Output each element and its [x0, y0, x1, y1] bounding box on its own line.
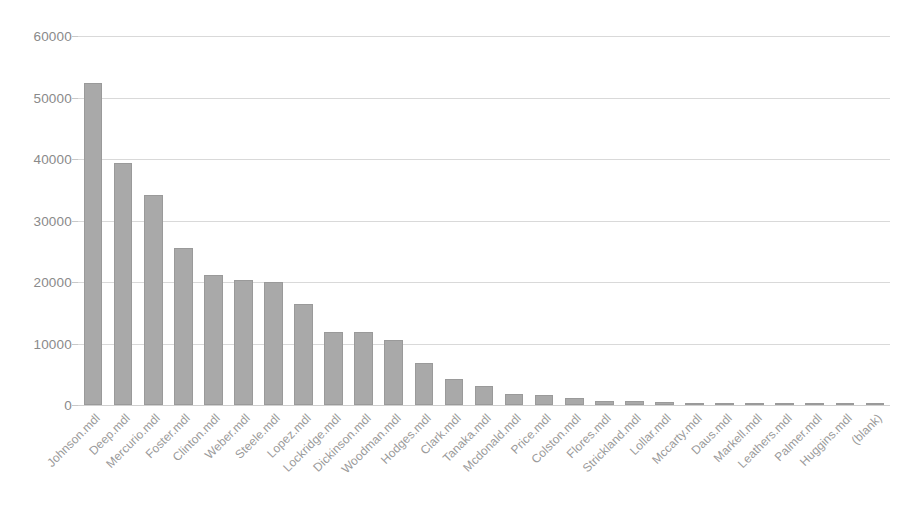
bar[interactable] [354, 332, 373, 405]
bar[interactable] [144, 195, 163, 405]
bar[interactable] [324, 332, 343, 405]
x-axis-category-label: (blank) [849, 411, 885, 447]
bars-layer [78, 36, 890, 405]
y-axis-tick-label: 50000 [6, 90, 72, 105]
y-axis-tick-label: 30000 [6, 213, 72, 228]
y-axis-tick-label: 10000 [6, 336, 72, 351]
y-axis: 0100002000030000400005000060000 [0, 0, 72, 515]
bar[interactable] [445, 379, 464, 405]
bar[interactable] [204, 275, 223, 405]
bar[interactable] [384, 340, 403, 405]
bar[interactable] [234, 280, 253, 405]
y-axis-tick-label: 0 [6, 398, 72, 413]
y-axis-tick-label: 20000 [6, 275, 72, 290]
bar[interactable] [535, 395, 554, 405]
bar[interactable] [475, 386, 494, 405]
y-axis-tick-label: 60000 [6, 29, 72, 44]
bar[interactable] [415, 363, 434, 405]
bar[interactable] [264, 282, 283, 405]
x-axis-labels: Johnson.mdlDeep.mdlMercurio.mdlFoster.md… [78, 405, 890, 515]
bar[interactable] [565, 398, 584, 405]
bar[interactable] [294, 304, 313, 405]
bar-chart: 0100002000030000400005000060000 Johnson.… [0, 0, 920, 515]
bar[interactable] [174, 248, 193, 405]
bar[interactable] [114, 163, 133, 405]
bar[interactable] [84, 83, 103, 405]
y-axis-tick-label: 40000 [6, 152, 72, 167]
bar[interactable] [505, 394, 524, 405]
